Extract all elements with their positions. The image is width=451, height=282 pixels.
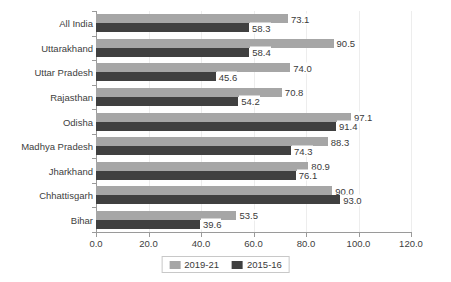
category-label: Uttar Pradesh [34,67,93,78]
x-tick-label: 120.0 [399,238,423,249]
bar-2015-16-uttar-pradesh[interactable] [96,72,216,81]
x-tick-label: 20.0 [139,238,158,249]
bar-value-label: 88.3 [329,136,350,147]
category-label: Odisha [63,116,93,127]
legend-label-2015-16: 2015-16 [247,259,282,270]
category-label: Bihar [71,214,93,225]
bar-value-label: 70.8 [283,87,304,98]
bar-value-label: 76.1 [297,170,318,181]
bar-2015-16-all-india[interactable] [96,23,249,32]
y-tick-mark [92,232,96,233]
bar-2019-21-chhattisgarh[interactable] [96,186,332,195]
x-tick-label: 100.0 [347,238,371,249]
y-tick-mark [92,85,96,86]
x-tick-mark [201,233,202,237]
bar-value-label: 54.2 [239,96,260,107]
bar-2019-21-odisha[interactable] [96,113,351,122]
bar-value-label: 45.6 [217,71,238,82]
x-tick-label: 60.0 [244,238,263,249]
bar-value-label: 73.1 [289,13,310,24]
x-tick-mark [149,233,150,237]
y-tick-mark [92,60,96,61]
bar-value-label: 74.0 [291,62,312,73]
y-tick-mark [92,158,96,159]
category-label: Chhattisgarh [39,190,93,201]
bar-value-label: 58.4 [250,47,271,58]
gridline [411,11,412,232]
bar-2019-21-uttar-pradesh[interactable] [96,63,290,72]
bar-value-label: 53.5 [237,210,258,221]
legend-entry-2019-21[interactable]: 2019-21 [169,259,219,270]
bar-2015-16-rajasthan[interactable] [96,97,238,106]
bar-2019-21-jharkhand[interactable] [96,162,308,171]
bar-value-label: 93.0 [341,194,362,205]
category-label: Jharkhand [49,165,93,176]
category-label: Uttarakhand [41,42,93,53]
category-label: Rajasthan [50,91,93,102]
category-label: Madhya Pradesh [21,141,93,152]
legend-swatch-icon-2019-21 [169,261,180,269]
bar-2015-16-uttarakhand[interactable] [96,48,249,57]
legend-entry-2015-16[interactable]: 2015-16 [232,259,282,270]
y-tick-mark [92,134,96,135]
x-tick-label: 40.0 [192,238,211,249]
x-tick-mark [359,233,360,237]
bar-2015-16-bihar[interactable] [96,220,200,229]
bar-value-label: 58.3 [250,22,271,33]
x-tick-label: 0.0 [89,238,102,249]
y-tick-mark [92,207,96,208]
bar-2015-16-jharkhand[interactable] [96,171,296,180]
y-tick-mark [92,36,96,37]
x-tick-label: 80.0 [297,238,316,249]
bar-2015-16-odisha[interactable] [96,122,336,131]
x-tick-mark [306,233,307,237]
bar-value-label: 90.5 [335,38,356,49]
x-tick-mark [411,233,412,237]
chart-legend: 2019-21 2015-16 [161,256,290,273]
category-label: All India [59,18,93,29]
legend-label-2019-21: 2019-21 [184,259,219,270]
bar-value-label: 74.3 [292,145,313,156]
y-tick-mark [92,11,96,12]
bar-value-label: 39.6 [201,219,222,230]
bar-chart: 0.020.040.060.080.0100.0120.0 All IndiaU… [0,0,451,282]
bar-2015-16-chhattisgarh[interactable] [96,195,340,204]
x-tick-mark [254,233,255,237]
bar-2019-21-uttarakhand[interactable] [96,39,334,48]
y-tick-mark [92,109,96,110]
legend-swatch-icon-2015-16 [232,261,243,269]
bar-2015-16-madhya-pradesh[interactable] [96,146,291,155]
x-tick-mark [96,233,97,237]
bar-value-label: 91.4 [337,121,358,132]
y-tick-mark [92,183,96,184]
